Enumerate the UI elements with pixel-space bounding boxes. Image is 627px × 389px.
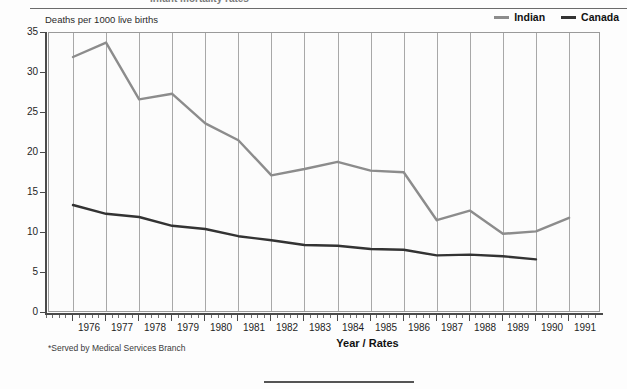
- y-axis-line: [45, 32, 47, 313]
- x-axis-minor-tick: [595, 315, 596, 318]
- x-axis-minor-tick: [297, 315, 298, 318]
- x-axis-minor-tick: [118, 315, 119, 318]
- x-axis-tick: [303, 315, 304, 321]
- x-axis-minor-tick: [542, 315, 543, 318]
- legend-item-canada: Canada: [561, 11, 619, 23]
- x-axis-minor-tick: [145, 315, 146, 318]
- y-axis-tick: [40, 232, 45, 233]
- x-axis-minor-tick: [92, 315, 93, 318]
- x-axis-minor-tick: [211, 315, 212, 318]
- x-axis-minor-tick: [356, 315, 357, 318]
- y-axis-tick-label: 20: [2, 146, 38, 157]
- x-axis-minor-tick: [396, 315, 397, 318]
- x-axis-minor-tick: [184, 315, 185, 318]
- x-axis-minor-tick: [198, 315, 199, 318]
- x-axis-minor-tick: [158, 315, 159, 318]
- x-axis-tick: [270, 315, 271, 321]
- x-axis-minor-tick: [581, 315, 582, 318]
- x-axis-minor-tick: [561, 315, 562, 318]
- y-axis-tick: [40, 152, 45, 153]
- y-axis-tick-labels: 35302520151050: [0, 0, 38, 389]
- x-axis-tick: [568, 315, 569, 321]
- x-axis-minor-tick: [191, 315, 192, 318]
- y-axis-tick-label: 35: [2, 26, 38, 37]
- y-axis-tick: [40, 32, 45, 33]
- chart-footnote: *Served by Medical Services Branch: [48, 343, 185, 353]
- x-axis-minor-tick: [409, 315, 410, 318]
- x-axis-minor-tick: [528, 315, 529, 318]
- x-axis-tick: [403, 315, 404, 321]
- y-axis-tick-label: 10: [2, 226, 38, 237]
- x-axis-minor-tick: [323, 315, 324, 318]
- x-axis-minor-tick: [509, 315, 510, 318]
- x-axis-minor-tick: [416, 315, 417, 318]
- y-axis-tick-label: 5: [2, 266, 38, 277]
- plot-area: [48, 32, 600, 312]
- series-line-canada: [73, 205, 536, 259]
- legend-item-indian: Indian: [494, 11, 545, 23]
- x-axis-minor-tick: [125, 315, 126, 318]
- legend-line-swatch-icon: [494, 16, 509, 19]
- x-axis-minor-tick: [555, 315, 556, 318]
- x-axis-minor-tick: [85, 315, 86, 318]
- x-axis-minor-tick: [165, 315, 166, 318]
- x-axis-minor-tick: [343, 315, 344, 318]
- x-axis-tick: [138, 315, 139, 321]
- x-axis-minor-tick: [257, 315, 258, 318]
- x-axis-minor-tick: [330, 315, 331, 318]
- x-axis-minor-tick: [442, 315, 443, 318]
- x-axis-minor-tick: [456, 315, 457, 318]
- series-line-indian: [73, 43, 569, 234]
- x-axis-minor-tick: [376, 315, 377, 318]
- x-axis-minor-tick: [363, 315, 364, 318]
- x-axis-tick: [72, 315, 73, 321]
- y-axis-tick: [40, 192, 45, 193]
- x-axis-minor-tick: [218, 315, 219, 318]
- x-axis-minor-tick: [284, 315, 285, 318]
- x-axis-minor-tick: [65, 315, 66, 318]
- x-axis-minor-tick: [383, 315, 384, 318]
- legend-line-swatch-icon: [561, 16, 576, 19]
- x-axis-minor-tick: [79, 315, 80, 318]
- x-axis-minor-tick: [52, 315, 53, 318]
- y-axis-tick: [40, 72, 45, 73]
- x-axis-minor-tick: [112, 315, 113, 318]
- x-axis-minor-tick: [495, 315, 496, 318]
- y-axis-tick-label: 15: [2, 186, 38, 197]
- x-axis-minor-tick: [548, 315, 549, 318]
- x-axis-title-text: Year / Rates: [336, 337, 398, 349]
- y-axis-tick-label: 30: [2, 66, 38, 77]
- x-axis-tick: [502, 315, 503, 321]
- y-axis-tick: [40, 272, 45, 273]
- x-axis-minor-tick: [264, 315, 265, 318]
- x-axis-minor-tick: [59, 315, 60, 318]
- x-axis-minor-tick: [178, 315, 179, 318]
- x-axis-minor-tick: [224, 315, 225, 318]
- x-axis-minor-tick: [588, 315, 589, 318]
- x-axis-minor-tick: [290, 315, 291, 318]
- x-axis-minor-tick: [423, 315, 424, 318]
- bottom-divider: [264, 381, 414, 383]
- x-axis-tick-label: 1991: [565, 322, 605, 333]
- x-axis-minor-tick: [429, 315, 430, 318]
- x-axis-tick: [171, 315, 172, 321]
- x-axis-minor-tick: [231, 315, 232, 318]
- legend-label-canada: Canada: [581, 11, 619, 23]
- chart-legend: Indian Canada: [494, 11, 619, 23]
- x-axis-tick: [370, 315, 371, 321]
- clipped-title-text: Infant mortality rates: [150, 0, 249, 4]
- x-axis-minor-tick: [575, 315, 576, 318]
- x-axis-tick: [436, 315, 437, 321]
- x-axis-tick: [469, 315, 470, 321]
- x-axis-minor-tick: [522, 315, 523, 318]
- x-axis-tick: [337, 315, 338, 321]
- x-axis-minor-tick: [310, 315, 311, 318]
- x-axis-minor-tick: [277, 315, 278, 318]
- y-axis-caption: Deaths per 1000 live births: [45, 14, 158, 25]
- chart-page: Infant mortality rates Deaths per 1000 l…: [0, 0, 627, 389]
- x-axis-minor-tick: [482, 315, 483, 318]
- y-axis-tick: [40, 112, 45, 113]
- x-axis-tick: [105, 315, 106, 321]
- x-axis-minor-tick: [244, 315, 245, 318]
- x-axis-line: [45, 313, 603, 315]
